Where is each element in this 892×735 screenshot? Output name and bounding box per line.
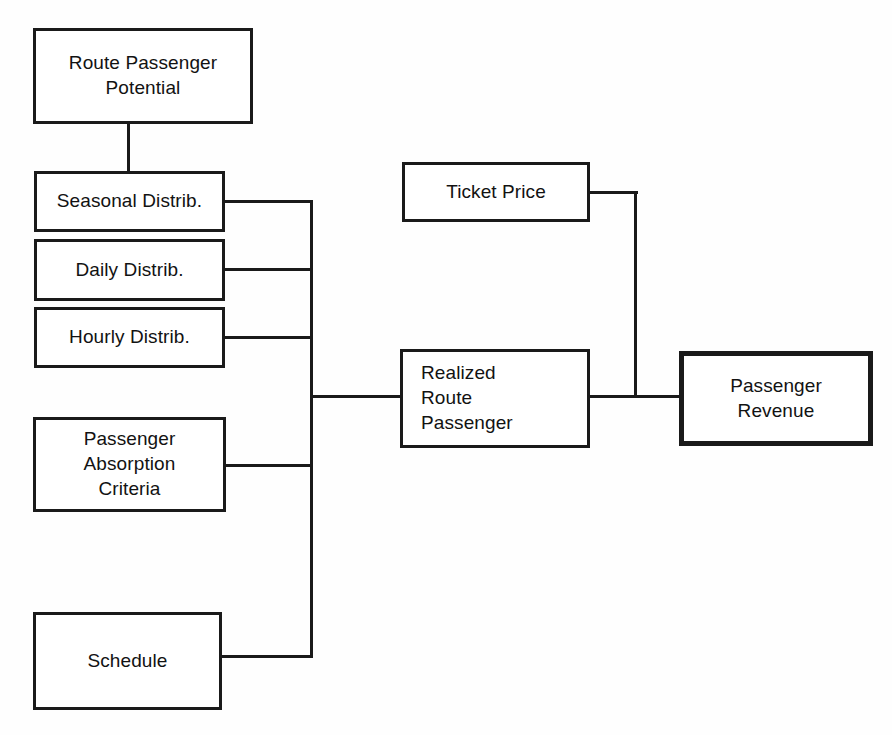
node-daily-distrib[interactable]: Daily Distrib. xyxy=(34,239,225,301)
node-ticket-price[interactable]: Ticket Price xyxy=(402,162,590,222)
node-passenger-absorption-criteria[interactable]: Passenger Absorption Criteria xyxy=(33,417,226,512)
node-hourly-distrib[interactable]: Hourly Distrib. xyxy=(34,307,225,368)
node-label: Passenger Revenue xyxy=(724,374,828,423)
node-label: Seasonal Distrib. xyxy=(51,189,208,214)
node-seasonal-distrib[interactable]: Seasonal Distrib. xyxy=(34,171,225,232)
node-label: Realized Route Passenger xyxy=(403,361,519,435)
edge-schedule-to-bus xyxy=(219,655,313,658)
edge-daily-to-bus xyxy=(222,268,313,271)
edge-potential-to-seasonal xyxy=(127,124,130,174)
node-label: Passenger Absorption Criteria xyxy=(78,427,182,501)
diagram-canvas: Route Passenger Potential Seasonal Distr… xyxy=(0,0,892,735)
node-label: Hourly Distrib. xyxy=(63,325,196,350)
node-passenger-revenue[interactable]: Passenger Revenue xyxy=(679,351,873,446)
edge-hourly-to-bus xyxy=(222,336,313,339)
node-schedule[interactable]: Schedule xyxy=(33,612,222,710)
edge-seasonal-to-bus xyxy=(222,200,313,203)
node-label: Route Passenger Potential xyxy=(63,51,223,100)
edge-ticket-price-stub xyxy=(587,191,638,194)
edge-absorption-to-bus xyxy=(222,464,313,467)
edge-bus-to-realized xyxy=(310,395,402,398)
node-route-passenger-potential[interactable]: Route Passenger Potential xyxy=(33,28,253,124)
node-label: Daily Distrib. xyxy=(69,258,189,283)
node-label: Ticket Price xyxy=(440,180,552,205)
node-label: Schedule xyxy=(81,649,173,674)
edge-right-collector-bus xyxy=(634,191,637,398)
node-realized-route-passenger[interactable]: Realized Route Passenger xyxy=(400,349,590,448)
edge-realized-to-revenue xyxy=(587,395,682,398)
